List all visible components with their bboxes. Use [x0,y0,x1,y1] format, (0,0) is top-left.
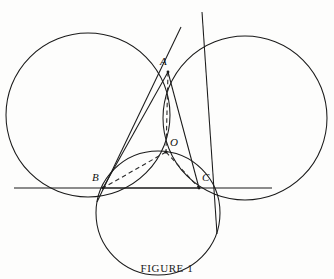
circle-bottom-BOC [96,151,220,275]
circle-left-AOB [6,33,170,197]
segment-A-B [103,72,168,188]
vertex-dot-B [102,187,105,190]
geometry-canvas [0,0,334,279]
figure-container: A B C O FIGURE 1 [0,0,334,279]
vertex-dot-C [198,187,201,190]
line-tangent-through-A-and-C [202,12,217,234]
point-label-B: B [92,172,99,183]
point-label-O: O [170,137,178,148]
vertex-dot-O [164,150,167,153]
point-label-A: A [160,56,167,67]
figure-caption: FIGURE 1 [0,262,334,274]
point-label-C: C [202,172,209,183]
vertex-dot-A [167,71,170,74]
